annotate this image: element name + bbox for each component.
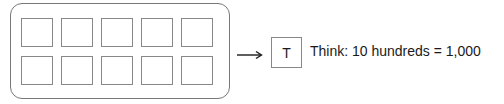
- think-text: Think: 10 hundreds = 1,000: [310, 43, 481, 59]
- empty-box: [141, 56, 173, 85]
- empty-box: [101, 18, 133, 47]
- empty-box: [101, 56, 133, 85]
- ten-frame: [10, 3, 230, 99]
- empty-box: [61, 56, 93, 85]
- empty-box: [181, 18, 213, 47]
- right-arrow-icon: [237, 50, 263, 60]
- hundreds-grid: [21, 18, 213, 85]
- empty-box: [21, 18, 53, 47]
- empty-box: [141, 18, 173, 47]
- thousands-box: T: [271, 37, 302, 68]
- empty-box: [21, 56, 53, 85]
- empty-box: [181, 56, 213, 85]
- empty-box: [61, 18, 93, 47]
